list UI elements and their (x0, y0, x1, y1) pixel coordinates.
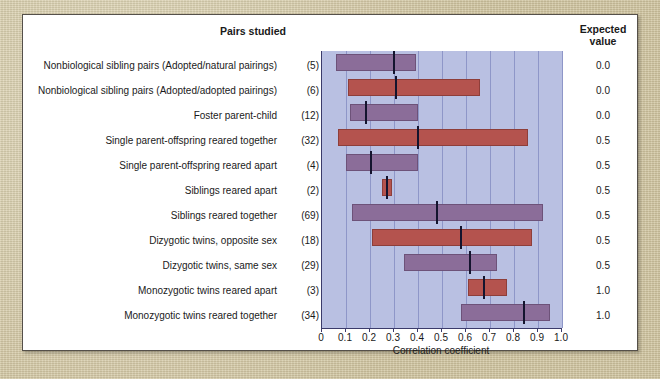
expected-value-cell: 1.0 (568, 278, 638, 303)
pairs-study-count: (29) (283, 260, 319, 271)
pairs-label-text: Siblings reared together (171, 210, 277, 221)
expected-value-cell: 0.5 (568, 253, 638, 278)
chart-bar-row (322, 101, 562, 126)
pairs-label-row: Siblings reared together(69) (29, 203, 319, 228)
chart-bar-row (322, 76, 562, 101)
pairs-label-row: Foster parent-child(12) (29, 103, 319, 128)
expected-value-cell: 1.0 (568, 303, 638, 328)
median-marker (386, 176, 388, 199)
range-bar (338, 129, 529, 146)
pairs-study-count: (34) (283, 310, 319, 321)
chart-bar-row (322, 51, 562, 76)
chart-bar-row (322, 251, 562, 276)
median-marker (395, 76, 397, 99)
range-bar (461, 304, 550, 321)
pairs-label-row: Dizygotic twins, opposite sex(18) (29, 228, 319, 253)
pairs-study-count: (12) (283, 110, 319, 121)
pairs-label-text: Single parent-offspring reared together (105, 135, 277, 146)
pairs-label-column: Nonbiological sibling pairs (Adopted/nat… (29, 53, 319, 328)
median-marker (460, 226, 462, 249)
pairs-label-text: Nonbiological sibling pairs (Adopted/ado… (38, 85, 277, 96)
expected-value-cell: 0.5 (568, 228, 638, 253)
chart-bars (322, 51, 562, 328)
pairs-label-text: Dizygotic twins, same sex (163, 260, 277, 271)
pairs-label-row: Siblings reared apart(2) (29, 178, 319, 203)
pairs-label-text: Single parent-offspring reared apart (119, 160, 277, 171)
pairs-label-text: Nonbiological sibling pairs (Adopted/nat… (44, 60, 277, 71)
chart-bar-row (322, 226, 562, 251)
median-marker (365, 101, 367, 124)
pairs-label-row: Nonbiological sibling pairs (Adopted/nat… (29, 53, 319, 78)
chart-bar-row (322, 151, 562, 176)
pairs-label-row: Single parent-offspring reared together(… (29, 128, 319, 153)
median-marker (523, 301, 525, 324)
range-bar (468, 279, 506, 296)
pairs-study-count: (5) (283, 60, 319, 71)
pairs-study-count: (69) (283, 210, 319, 221)
chart-bar-row (322, 201, 562, 226)
pairs-label-text: Siblings reared apart (185, 185, 277, 196)
chart-plot-area (321, 51, 562, 329)
expected-value-header: Expected value (568, 23, 638, 47)
pairs-label-row: Dizygotic twins, same sex(29) (29, 253, 319, 278)
range-bar (404, 254, 498, 271)
median-marker (483, 276, 485, 299)
pairs-study-count: (18) (283, 235, 319, 246)
pairs-label-row: Single parent-offspring reared apart(4) (29, 153, 319, 178)
pairs-label-text: Monozygotic twins reared together (124, 310, 277, 321)
median-marker (469, 251, 471, 274)
expected-value-header-line1: Expected (568, 23, 638, 35)
range-bar (336, 54, 415, 71)
pairs-label-text: Foster parent-child (194, 110, 277, 121)
chart-bar-row (322, 301, 562, 326)
pairs-study-count: (6) (283, 85, 319, 96)
pairs-study-count: (2) (283, 185, 319, 196)
range-bar (348, 79, 480, 96)
expected-value-cell: 0.5 (568, 178, 638, 203)
gridline (562, 51, 563, 328)
pairs-study-count: (3) (283, 285, 319, 296)
chart-bar-row (322, 276, 562, 301)
pairs-label-text: Monozygotic twins reared apart (138, 285, 277, 296)
pairs-study-count: (4) (283, 160, 319, 171)
x-axis-ticks: 00.10.20.30.40.50.60.70.80.91.0 (321, 329, 561, 343)
expected-value-cell: 0.5 (568, 128, 638, 153)
range-bar (372, 229, 532, 246)
expected-value-header-line2: value (568, 35, 638, 47)
median-marker (393, 51, 395, 74)
x-axis-title: Correlation coefficient (321, 345, 561, 356)
expected-value-cell: 0.0 (568, 78, 638, 103)
expected-value-column: 0.00.00.00.50.50.50.50.50.51.01.0 (568, 53, 638, 328)
pairs-label-row: Nonbiological sibling pairs (Adopted/ado… (29, 78, 319, 103)
pairs-label-row: Monozygotic twins reared together(34) (29, 303, 319, 328)
pairs-study-count: (32) (283, 135, 319, 146)
range-bar (352, 204, 543, 221)
range-bar (350, 104, 418, 121)
expected-value-cell: 0.5 (568, 153, 638, 178)
chart-bar-row (322, 126, 562, 151)
expected-value-cell: 0.0 (568, 53, 638, 78)
pairs-label-text: Dizygotic twins, opposite sex (149, 235, 277, 246)
x-tick-label: 1.0 (546, 332, 576, 343)
median-marker (436, 201, 438, 224)
chart-bar-row (322, 176, 562, 201)
expected-value-cell: 0.0 (568, 103, 638, 128)
figure-card: Pairs studied Expected value Nonbiologic… (22, 14, 638, 351)
pairs-studied-header: Pairs studied (143, 25, 363, 37)
range-bar (346, 154, 418, 171)
median-marker (370, 151, 372, 174)
expected-value-cell: 0.5 (568, 203, 638, 228)
pairs-label-row: Monozygotic twins reared apart(3) (29, 278, 319, 303)
median-marker (417, 126, 419, 149)
